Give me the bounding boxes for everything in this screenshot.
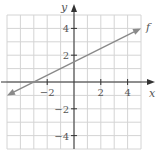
graph-of-f: −22442−2−4 x y f — [0, 0, 156, 150]
y-tick-label: 2 — [63, 50, 69, 61]
y-tick-label: −4 — [54, 131, 69, 142]
y-tick-label: 4 — [63, 23, 69, 34]
axes — [1, 4, 155, 149]
x-tick-label: 2 — [98, 87, 104, 98]
x-tick-label: 4 — [124, 87, 130, 98]
function-label: f — [145, 21, 152, 34]
y-tick-label: −2 — [54, 104, 69, 115]
x-tick-label: −2 — [40, 87, 55, 98]
x-axis-label: x — [149, 87, 156, 100]
y-axis-label: y — [60, 1, 68, 14]
